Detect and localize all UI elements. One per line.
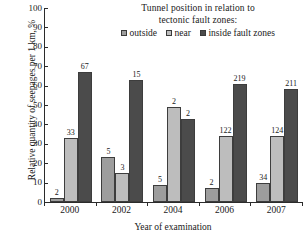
bar-value-label: 3: [120, 164, 124, 172]
bar-rect[interactable]: [153, 185, 167, 202]
y-tick-label: 70: [33, 62, 45, 71]
bar-rect[interactable]: [233, 84, 247, 202]
y-tick-mark: [45, 202, 48, 203]
x-axis-tick-labels: 20002002200420062007: [44, 205, 302, 215]
bar-value-label: 2: [55, 189, 59, 197]
bar-rect[interactable]: [256, 183, 270, 202]
y-tick-label: 10: [33, 178, 45, 187]
bar-inside-fault-zones-2002[interactable]: 15: [129, 8, 143, 202]
bar-near-2000[interactable]: 33: [64, 8, 78, 202]
bar-value-label: 34: [259, 174, 267, 182]
x-tick-label-2000: 2000: [44, 205, 96, 215]
x-axis-title: Year of examination: [44, 222, 302, 232]
bar-rect[interactable]: [284, 89, 298, 202]
y-tick-label: 30: [33, 139, 45, 148]
bar-rect[interactable]: [101, 157, 115, 202]
y-tick-label: 40: [33, 120, 45, 129]
y-tick-label: 60: [33, 81, 45, 90]
bar-value-label: 2: [210, 179, 214, 187]
bar-outside-2002[interactable]: 5: [101, 8, 115, 202]
bar-inside-fault-zones-2006[interactable]: 219: [233, 8, 247, 202]
y-tick-label: 90: [33, 23, 45, 32]
bar-rect[interactable]: [129, 80, 143, 202]
bar-value-label: 5: [158, 176, 162, 184]
bar-outside-2000[interactable]: 2: [50, 8, 64, 202]
x-tick-label-2002: 2002: [96, 205, 148, 215]
bar-group-2006: 2122219: [200, 8, 252, 202]
bar-group-2007: 34124211: [251, 8, 303, 202]
plot-area: 1009080706050403020100 23367531552221222…: [44, 8, 303, 203]
bar-outside-2006[interactable]: 2: [205, 8, 219, 202]
bar-chart: Tunnel position in relation to tectonic …: [0, 0, 308, 239]
bar-rect[interactable]: [115, 173, 129, 202]
bar-value-label: 124: [271, 127, 283, 135]
bar-rect[interactable]: [219, 136, 233, 202]
bar-value-label: 33: [67, 129, 75, 137]
bar-group-2004: 522: [148, 8, 200, 202]
bar-value-label: 211: [285, 80, 297, 88]
bar-value-label: 122: [220, 127, 232, 135]
x-tick-label-2006: 2006: [199, 205, 251, 215]
x-tick-mark: [302, 203, 303, 206]
bar-rect[interactable]: [50, 198, 64, 202]
bar-rect[interactable]: [181, 119, 195, 202]
bar-value-label: 67: [81, 63, 89, 71]
bar-rect[interactable]: [78, 72, 92, 202]
bar-group-2002: 5315: [97, 8, 149, 202]
bar-near-2007[interactable]: 124: [270, 8, 284, 202]
bar-outside-2004[interactable]: 5: [153, 8, 167, 202]
bar-value-label: 219: [234, 75, 246, 83]
bar-value-label: 5: [106, 148, 110, 156]
bar-inside-fault-zones-2000[interactable]: 67: [78, 8, 92, 202]
bar-near-2002[interactable]: 3: [115, 8, 129, 202]
bar-value-label: 15: [132, 71, 140, 79]
bar-group-2000: 23367: [45, 8, 97, 202]
x-tick-label-2007: 2007: [250, 205, 302, 215]
y-tick-label: 50: [33, 101, 45, 110]
bar-near-2004[interactable]: 2: [167, 8, 181, 202]
y-tick-label: 80: [33, 42, 45, 51]
x-tick-label-2004: 2004: [147, 205, 199, 215]
bar-inside-fault-zones-2007[interactable]: 211: [284, 8, 298, 202]
bar-rect[interactable]: [64, 138, 78, 202]
bar-near-2006[interactable]: 122: [219, 8, 233, 202]
bar-rect[interactable]: [167, 107, 181, 202]
bar-groups: 233675315522212221934124211: [45, 8, 303, 202]
bar-rect[interactable]: [205, 188, 219, 202]
bar-value-label: 2: [172, 98, 176, 106]
y-tick-label: 100: [29, 4, 46, 13]
bar-outside-2007[interactable]: 34: [256, 8, 270, 202]
y-tick-label: 20: [33, 159, 45, 168]
bar-value-label: 2: [186, 110, 190, 118]
bar-inside-fault-zones-2004[interactable]: 2: [181, 8, 195, 202]
bar-rect[interactable]: [270, 136, 284, 202]
